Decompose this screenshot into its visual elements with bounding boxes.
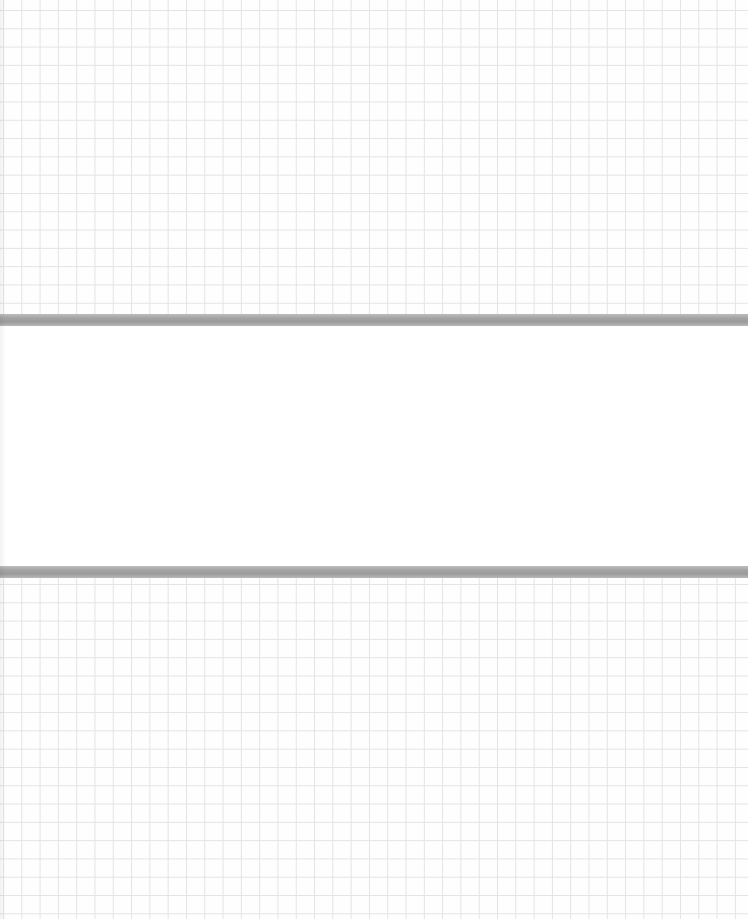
grid-paper-top — [0, 0, 748, 314]
divider-bar-top — [0, 314, 748, 326]
grid-paper-bottom — [0, 578, 748, 919]
left-edge-shadow — [0, 0, 6, 919]
blank-strip — [0, 326, 748, 566]
divider-bar-bottom — [0, 566, 748, 578]
